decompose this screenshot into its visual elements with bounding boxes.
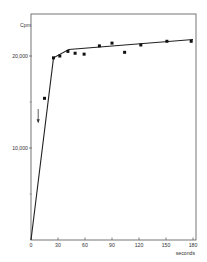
data-point <box>123 51 126 54</box>
x-tick-label: 30 <box>55 242 61 248</box>
x-tick-label: 180 <box>189 242 198 248</box>
fit-line <box>31 39 193 240</box>
data-points <box>43 40 193 100</box>
data-point <box>83 53 86 56</box>
x-tick-label: 0 <box>30 242 33 248</box>
chart: 10,00020,000 0306090120150180 Cpm second… <box>0 0 207 262</box>
y-axis: 10,00020,000 <box>12 53 32 194</box>
x-tick-label: 120 <box>135 242 144 248</box>
data-point <box>74 52 77 55</box>
arrow-down-icon <box>37 119 40 123</box>
x-axis-label: seconds <box>176 250 196 256</box>
x-axis: 0306090120150180 <box>30 238 198 249</box>
data-point <box>165 40 168 43</box>
arrow-annotation <box>37 109 40 123</box>
x-tick-label: 60 <box>82 242 88 248</box>
x-tick-label: 150 <box>162 242 171 248</box>
y-axis-label: Cpm <box>20 22 31 28</box>
y-tick-label: 10,000 <box>12 145 28 151</box>
data-point <box>58 55 61 58</box>
data-point <box>98 44 101 47</box>
data-point <box>111 42 114 45</box>
y-tick-label: 20,000 <box>12 53 28 59</box>
x-tick-label: 90 <box>109 242 115 248</box>
data-point <box>43 97 46 100</box>
data-point <box>190 40 193 43</box>
plot-frame <box>31 14 196 240</box>
data-point <box>66 50 69 53</box>
data-point <box>52 56 55 59</box>
data-point <box>139 43 142 46</box>
